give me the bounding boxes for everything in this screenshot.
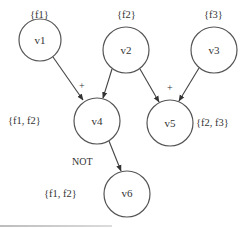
edge-v2-v4 <box>103 69 112 98</box>
feature-propagation-graph: + + NOT v1 v2 v3 v4 v5 v6 <box>0 0 248 228</box>
set-label-v2: {f2} <box>117 9 136 20</box>
edge-v3-v5 <box>179 68 199 101</box>
bottom-divider <box>0 225 112 227</box>
set-label-v4: {f1, f2} <box>8 115 41 126</box>
node-v6: v6 <box>104 171 150 217</box>
node-v5: v5 <box>147 100 193 146</box>
set-label-v6: {f1, f2} <box>44 188 77 199</box>
node-v3: v3 <box>191 27 237 73</box>
node-v4: v4 <box>74 98 120 144</box>
node-v1: v1 <box>19 19 61 61</box>
node-v2: v2 <box>103 27 149 73</box>
edge-v1-v4 <box>53 57 83 100</box>
operator-not-v6: NOT <box>72 156 93 167</box>
node-label-v4: v4 <box>92 115 104 127</box>
operator-plus-v4: + <box>79 80 85 91</box>
edge-v4-v6 <box>109 141 121 171</box>
node-label-v3: v3 <box>209 44 221 56</box>
node-label-v5: v5 <box>165 117 177 129</box>
set-label-v5: {f2, f3} <box>196 117 229 128</box>
operator-plus-v5: + <box>167 82 173 93</box>
node-label-v1: v1 <box>35 34 46 46</box>
edge-v2-v5 <box>140 69 159 102</box>
set-label-v3: {f3} <box>204 9 223 20</box>
set-label-v1: {f1} <box>30 9 49 20</box>
node-label-v6: v6 <box>122 187 134 199</box>
node-label-v2: v2 <box>121 44 132 56</box>
